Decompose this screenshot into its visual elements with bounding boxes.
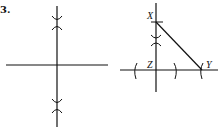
point-label-x: X [146, 10, 154, 21]
y-arc [201, 63, 203, 79]
point-label-z: Z [147, 59, 153, 70]
left-figure [6, 6, 108, 127]
construction-diagram: 3. X Z Y [0, 0, 223, 127]
point-label-y: Y [206, 59, 213, 70]
hypotenuse-xy [156, 22, 202, 70]
right-figure [120, 3, 218, 92]
right-arc [174, 63, 176, 79]
left-arc [135, 63, 137, 79]
problem-number: 3. [0, 4, 10, 15]
